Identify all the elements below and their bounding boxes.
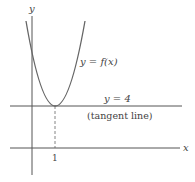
curve-label: y = f(x): [79, 56, 118, 67]
curve-f: [26, 21, 85, 106]
tangent-label: y = 4: [103, 93, 131, 104]
y-axis-label: y: [28, 3, 35, 14]
x-axis-label: x: [183, 142, 189, 153]
tangent-line-diagram: y x y = f(x) y = 4 (tangent line) 1: [0, 0, 195, 182]
tangent-note: (tangent line): [87, 110, 153, 121]
tick-label-1: 1: [52, 153, 58, 163]
